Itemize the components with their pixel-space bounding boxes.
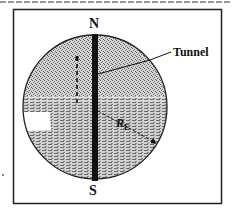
north-pole-label: N <box>89 17 99 31</box>
radius-subscript: E <box>124 123 129 132</box>
earth-tunnel-diagram <box>0 0 232 212</box>
radius-symbol: R <box>116 116 124 130</box>
south-pole-label: S <box>89 184 97 198</box>
tunnel-label: Tunnel <box>173 46 209 58</box>
tunnel-bar <box>92 34 98 181</box>
stray-mark <box>2 174 4 176</box>
displacement-marker <box>76 56 79 61</box>
earth-radius-label: RE <box>116 117 129 132</box>
